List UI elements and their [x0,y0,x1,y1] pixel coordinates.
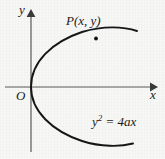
point-p-label: P(x, y) [66,14,101,27]
x-axis-label: x [150,88,156,101]
y-axis-arrowhead [27,9,36,17]
origin-label: O [16,89,25,102]
y-axis-label: y [19,3,25,16]
parabola-figure: y x O P(x, y) y2 = 4ax [0,0,165,159]
point-p-marker [94,37,98,41]
parabola-upper-branch [31,27,137,87]
equation-label: y2 = 4ax [92,114,136,128]
equation-rest: = 4ax [102,114,136,129]
